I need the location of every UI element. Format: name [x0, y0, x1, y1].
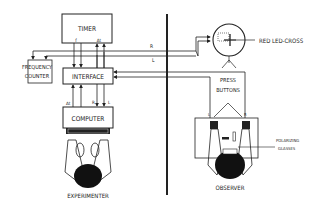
computer-l-label: L — [108, 100, 111, 105]
frequency-counter-block: FREQUENCY COUNTER — [22, 60, 53, 83]
computer-label: COMPUTER — [72, 115, 105, 123]
red-led-cross — [213, 24, 255, 68]
button-l-label: L — [208, 112, 210, 117]
experimenter-label: EXPERIMENTER — [67, 192, 109, 199]
experiment-setup-diagram: TIMER f Δt INTERFACE FREQUENCY COUNTER C… — [0, 0, 322, 207]
line-r-label: R — [150, 43, 153, 49]
button-r-label: R — [244, 112, 247, 117]
timer-label: TIMER — [77, 25, 96, 33]
computer-block: COMPUTER Δt R L — [63, 100, 113, 134]
observer-label: OBSERVER — [216, 184, 245, 191]
frequency-counter-label-1: FREQUENCY — [22, 64, 53, 70]
timer-interface-connections — [74, 43, 104, 68]
interface-label: INTERFACE — [72, 73, 104, 81]
rl-signal-lines — [33, 37, 210, 59]
experimenter-figure — [65, 140, 111, 188]
press-buttons-label-1: PRESS — [220, 77, 236, 83]
computer-r-label: R — [92, 100, 95, 105]
interface-block: INTERFACE — [63, 68, 113, 84]
polarizing-glasses-label-1: POLARIZING — [276, 138, 299, 143]
timer-block: TIMER f Δt — [62, 14, 112, 43]
timer-dt-label: Δt — [97, 38, 102, 43]
timer-f-label: f — [75, 38, 77, 43]
press-buttons-pointers — [214, 103, 242, 117]
polarizing-glasses-label-2: GLASSES — [278, 146, 296, 151]
frequency-counter-label-2: COUNTER — [25, 73, 50, 79]
observer-figure — [208, 121, 275, 179]
press-buttons-label-2: BUTTONS — [216, 87, 240, 93]
computer-dt-label: Δt — [66, 101, 71, 106]
line-l-label: L — [152, 57, 155, 63]
red-led-cross-label: RED LED-CROSS — [259, 37, 304, 44]
